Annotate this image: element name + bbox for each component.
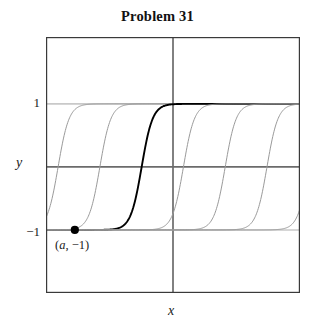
- plot-area: [46, 37, 300, 293]
- y-axis-label: y: [16, 155, 22, 171]
- direction-field-plot: [46, 37, 300, 293]
- y-tick-label-1: 1: [14, 95, 40, 111]
- initial-condition-point: [71, 226, 79, 234]
- x-axis-label: x: [168, 303, 174, 319]
- page-title: Problem 31: [0, 8, 315, 25]
- axes-group: [46, 37, 300, 293]
- points-group: [71, 226, 79, 234]
- y-tick-label-negative-1: −1: [12, 224, 40, 240]
- figure-container: Problem 31 1 −1 y x (a, −1): [0, 0, 315, 332]
